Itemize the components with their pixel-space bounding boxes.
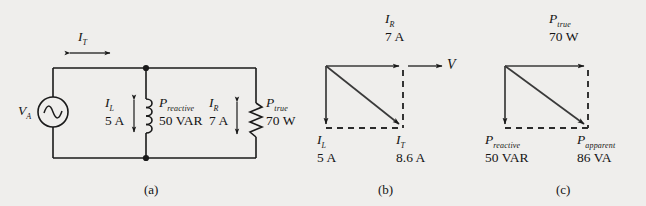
label-power-reactive: Preactive 50 VAR <box>485 133 528 165</box>
panel-b-phasors <box>326 66 442 128</box>
resistor-symbol <box>250 103 262 137</box>
label-inductor-current: IL 5 A <box>105 96 124 128</box>
label-resistor-current: IR 7 A <box>209 96 228 128</box>
label-phasor-ir: IR 7 A <box>385 12 404 44</box>
caption-panel-c: (c) <box>556 182 570 198</box>
junction-dot-top <box>143 65 149 71</box>
inductor-symbol <box>146 99 152 133</box>
caption-panel-a: (a) <box>144 182 158 198</box>
label-phasor-it: IT 8.6 A <box>396 133 425 165</box>
label-power-true: Ptrue 70 W <box>549 12 578 44</box>
vector-papparent <box>505 66 584 124</box>
figure-container: IT VA IL 5 A Preactive 50 VAR IR 7 A Ptr… <box>0 0 646 206</box>
label-total-current: IT <box>78 30 87 47</box>
junction-dot-bottom <box>143 155 149 161</box>
vector-it <box>326 66 399 124</box>
label-inductor-power: Preactive 50 VAR <box>159 96 202 128</box>
panel-c-power-triangle <box>505 66 588 128</box>
label-phasor-il: IL 5 A <box>317 133 336 165</box>
label-resistor-power: Ptrue 70 W <box>266 96 295 128</box>
label-source-voltage: VA <box>18 104 31 121</box>
label-phasor-v-axis: V <box>447 58 456 73</box>
ac-source-symbol <box>38 97 68 127</box>
caption-panel-b: (b) <box>378 182 393 198</box>
label-power-apparent: Papparent 86 VA <box>577 133 615 165</box>
